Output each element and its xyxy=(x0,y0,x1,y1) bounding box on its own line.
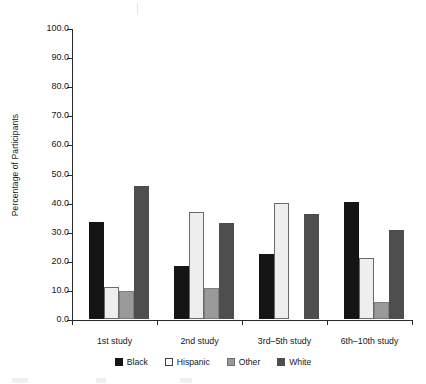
legend-item-label: Other xyxy=(239,357,261,367)
legend-swatch-icon xyxy=(165,358,173,366)
bar xyxy=(119,291,134,319)
y-axis-tick-label: 100.0 xyxy=(46,23,69,34)
y-axis-tick-label: 80.0 xyxy=(51,81,69,92)
bar-group xyxy=(174,28,234,319)
x-axis-tick xyxy=(157,320,158,325)
bar xyxy=(359,258,374,319)
y-axis-tick-label: 50.0 xyxy=(51,169,69,180)
scan-artifact-icon xyxy=(137,3,138,15)
y-axis-tick-label: 30.0 xyxy=(51,227,69,238)
bar-group xyxy=(89,28,149,319)
y-axis-tick-label: 10.0 xyxy=(51,285,69,296)
bar xyxy=(134,186,149,319)
bar xyxy=(204,288,219,319)
x-axis-label: 1st study xyxy=(97,336,132,346)
y-axis-tick-label: 0.0 xyxy=(56,314,69,325)
y-axis-tick-label: 60.0 xyxy=(51,139,69,150)
y-axis-title: Percentage of Participants xyxy=(0,0,30,330)
y-axis-title-label: Percentage of Participants xyxy=(10,114,20,216)
legend-item[interactable]: Other xyxy=(227,357,261,367)
y-axis-line xyxy=(72,29,73,321)
legend-item-label: Hispanic xyxy=(177,357,210,367)
x-axis-tick xyxy=(72,320,73,325)
y-axis-tick-label: 40.0 xyxy=(51,198,69,209)
y-axis-tick-label: 20.0 xyxy=(51,256,69,267)
y-axis-tick-label: 70.0 xyxy=(51,110,69,121)
y-axis-tick-label: 90.0 xyxy=(51,52,69,63)
bar xyxy=(189,212,204,319)
bar xyxy=(274,203,289,319)
bar-group xyxy=(259,28,319,319)
bar xyxy=(259,254,274,319)
bar xyxy=(104,287,119,319)
legend-item[interactable]: White xyxy=(277,357,311,367)
legend-item-label: Black xyxy=(127,357,148,367)
chart-legend: BlackHispanicOtherWhite xyxy=(0,357,426,367)
legend-swatch-icon xyxy=(227,358,235,366)
bar xyxy=(374,302,389,319)
x-axis-tick xyxy=(242,320,243,325)
legend-item[interactable]: Black xyxy=(115,357,148,367)
bar xyxy=(219,223,234,319)
bar xyxy=(389,230,404,319)
legend-swatch-icon xyxy=(115,358,123,366)
legend-item-label: White xyxy=(289,357,311,367)
x-axis-tick xyxy=(412,320,413,325)
x-axis-label: 2nd study xyxy=(180,336,218,346)
bar xyxy=(174,266,189,319)
legend-item[interactable]: Hispanic xyxy=(165,357,210,367)
x-axis-tick xyxy=(327,320,328,325)
bar xyxy=(344,202,359,319)
bar-group xyxy=(344,28,404,319)
bar xyxy=(304,214,319,319)
legend-swatch-icon xyxy=(277,358,285,366)
bar-chart-figure: Percentage of Participants 0.010.020.030… xyxy=(0,0,426,384)
plot-area: 0.010.020.030.040.050.060.070.080.090.01… xyxy=(72,29,412,320)
x-axis-label: 3rd–5th study xyxy=(258,336,311,346)
bar xyxy=(89,222,104,319)
x-axis-label: 6th–10th study xyxy=(341,336,399,346)
scan-artifact-strip xyxy=(0,378,426,384)
